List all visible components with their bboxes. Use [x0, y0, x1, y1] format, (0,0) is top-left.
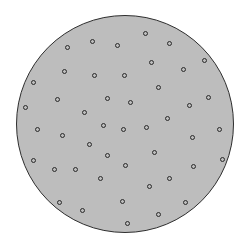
- ring-dot: [202, 58, 207, 63]
- ring-dot: [31, 80, 36, 85]
- ring-dot: [101, 123, 106, 128]
- ring-dot: [80, 208, 85, 213]
- ring-dot: [73, 167, 78, 172]
- ring-dot: [31, 158, 36, 163]
- ring-dot: [167, 176, 172, 181]
- ring-dot: [105, 153, 110, 158]
- ring-dot: [120, 199, 125, 204]
- ring-dot: [183, 200, 188, 205]
- ring-dot: [156, 212, 161, 217]
- ring-dot: [181, 67, 186, 72]
- ring-dot: [206, 95, 211, 100]
- disk-figure: [0, 0, 248, 248]
- ring-dot: [167, 41, 172, 46]
- ring-dot: [60, 133, 65, 138]
- ring-dot: [92, 73, 97, 78]
- ring-dot: [87, 142, 92, 147]
- ring-dot: [57, 200, 62, 205]
- ring-dot: [156, 85, 161, 90]
- ring-dot: [65, 45, 70, 50]
- ring-dot: [152, 150, 157, 155]
- ring-dot: [187, 103, 192, 108]
- ring-dot: [217, 127, 222, 132]
- ring-dot: [147, 184, 152, 189]
- ring-dot: [122, 73, 127, 78]
- ring-dot: [144, 125, 149, 130]
- ring-dot: [220, 157, 225, 162]
- ring-dot: [128, 100, 133, 105]
- ring-dot: [90, 39, 95, 44]
- ring-dot: [190, 135, 195, 140]
- ring-dot: [125, 221, 130, 226]
- ring-dot: [165, 116, 170, 121]
- ring-dot: [82, 110, 87, 115]
- ring-dot: [98, 176, 103, 181]
- ring-dot: [143, 31, 148, 36]
- ring-dot: [105, 96, 110, 101]
- ring-dot: [55, 97, 60, 102]
- ring-dot: [121, 127, 126, 132]
- ring-dot: [123, 163, 128, 168]
- ring-dot: [191, 164, 196, 169]
- ring-dot: [35, 127, 40, 132]
- gray-disk: [16, 15, 234, 233]
- ring-dot: [23, 105, 28, 110]
- ring-dot: [149, 60, 154, 65]
- ring-dot: [115, 43, 120, 48]
- ring-dot: [62, 69, 67, 74]
- ring-dot: [52, 167, 57, 172]
